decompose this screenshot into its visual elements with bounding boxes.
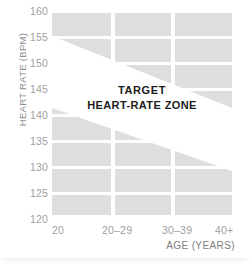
gridline-140 bbox=[52, 114, 232, 117]
gridline-150 bbox=[52, 62, 232, 65]
y-tick-145: 145 bbox=[4, 84, 48, 94]
y-tick-140: 140 bbox=[4, 110, 48, 120]
y-tick-130: 130 bbox=[4, 162, 48, 172]
x-axis-title: AGE (YEARS) bbox=[166, 240, 235, 251]
y-tick-160: 160 bbox=[4, 6, 48, 16]
x-tick-40-plus: 40+ bbox=[215, 224, 233, 236]
y-axis-tick-labels: 160 155 150 145 140 135 130 125 120 bbox=[0, 11, 48, 217]
x-axis-tick-labels: 20 20–29 30–39 40+ bbox=[52, 224, 234, 238]
gridline-160 bbox=[52, 11, 232, 13]
y-tick-120: 120 bbox=[4, 214, 48, 224]
gridline-120 bbox=[52, 215, 232, 217]
gridline-145 bbox=[52, 88, 232, 91]
column-divider-2 bbox=[171, 11, 175, 217]
heart-rate-zone-chart: HEART RATE (BPM) 160 155 150 145 140 135… bbox=[0, 0, 249, 271]
y-tick-150: 150 bbox=[4, 58, 48, 68]
y-tick-155: 155 bbox=[4, 32, 48, 42]
gridline-135 bbox=[52, 140, 232, 143]
gridline-155 bbox=[52, 36, 232, 39]
plot-area bbox=[52, 11, 232, 217]
gridline-125 bbox=[52, 192, 232, 195]
x-tick-20: 20 bbox=[52, 224, 64, 236]
y-tick-135: 135 bbox=[4, 136, 48, 146]
x-tick-30-39: 30–39 bbox=[162, 224, 192, 236]
y-tick-125: 125 bbox=[4, 188, 48, 198]
x-tick-20-29: 20–29 bbox=[102, 224, 132, 236]
column-divider-1 bbox=[111, 11, 115, 217]
gridline-130 bbox=[52, 166, 232, 169]
